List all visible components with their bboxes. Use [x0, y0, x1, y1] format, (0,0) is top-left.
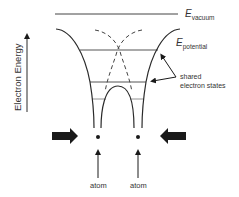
potential-label: Epotential: [176, 38, 207, 51]
barrier-dome-curve: [101, 86, 134, 128]
compression-arrow-left: [52, 128, 78, 144]
compression-arrow-right: [160, 128, 186, 144]
shared-states-line1: shared: [180, 72, 226, 81]
atom-dot-right: [136, 135, 140, 139]
left-potential-curve: [56, 29, 94, 128]
atom-dot-left: [96, 135, 100, 139]
shared-states-label: shared electron states: [180, 72, 226, 90]
shared-states-line2: electron states: [180, 81, 226, 90]
potential-symbol: E: [176, 37, 183, 48]
diagram-graphics: [0, 0, 239, 197]
energy-axis-label: Electron Energy: [12, 43, 23, 111]
energy-diagram: Evacuum Epotential Electron Energy share…: [0, 0, 239, 197]
atom-label-right: atom: [130, 182, 147, 190]
atom-label-left: atom: [90, 182, 107, 190]
vacuum-symbol: E: [185, 8, 192, 19]
shared-states-pointer-lower: [153, 77, 176, 81]
right-potential-curve: [142, 29, 180, 128]
vacuum-subscript: vacuum: [192, 14, 215, 21]
potential-subscript: potential: [183, 43, 208, 50]
vacuum-level-label: Evacuum: [185, 9, 214, 22]
shared-states-pointer-upper: [162, 56, 176, 77]
